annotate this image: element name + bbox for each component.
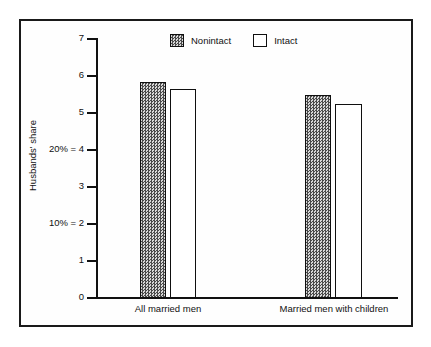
y-tick-label-2: 10% = 2 <box>14 218 84 228</box>
bar-nonintact-married-men-with-children <box>305 95 331 298</box>
x-category-label-married-men-with-children: Married men with children <box>265 303 403 314</box>
bar-intact-all-married-men <box>170 89 196 298</box>
y-tick-6 <box>87 75 96 77</box>
y-tick-label-7: 7 <box>14 33 84 43</box>
y-tick-label-2-wrap: 10% = 2 <box>8 218 84 228</box>
legend-label-intact: Intact <box>274 35 297 46</box>
open-square-icon <box>253 34 267 47</box>
y-tick-5 <box>87 112 96 114</box>
y-tick-label-0: 0 <box>14 292 84 302</box>
y-axis-line <box>96 38 98 299</box>
bar-nonintact-all-married-men <box>140 82 166 298</box>
y-tick-label-3: 3 <box>14 181 84 191</box>
y-tick-3 <box>87 186 96 188</box>
y-tick-2 <box>87 223 96 225</box>
y-tick-label-5: 5 <box>14 107 84 117</box>
legend-label-nonintact: Nonintact <box>191 35 231 46</box>
plot-area: Nonintact Intact Husbands' share 7 6 5 <box>0 0 431 347</box>
y-tick-label-0-wrap: 0 <box>8 292 84 302</box>
legend-item-nonintact: Nonintact <box>170 34 231 47</box>
y-tick-label-5-wrap: 5 <box>8 107 84 117</box>
legend-item-intact: Intact <box>253 34 297 47</box>
y-tick-label-6: 6 <box>14 70 84 80</box>
chart-figure: Nonintact Intact Husbands' share 7 6 5 <box>0 0 431 347</box>
y-tick-label-3-wrap: 3 <box>8 181 84 191</box>
y-tick-0 <box>87 297 96 299</box>
y-tick-label-7-wrap: 7 <box>8 33 84 43</box>
y-tick-7 <box>87 38 96 40</box>
x-category-label-all-married-men: All married men <box>108 303 228 314</box>
y-tick-1 <box>87 260 96 262</box>
y-tick-label-4-wrap: 20% = 4 <box>8 144 84 154</box>
bar-intact-married-men-with-children <box>335 104 362 298</box>
y-tick-4 <box>87 149 96 151</box>
stippled-square-icon <box>170 34 184 47</box>
chart-legend: Nonintact Intact <box>170 34 297 47</box>
y-tick-label-1: 1 <box>14 255 84 265</box>
y-tick-label-1-wrap: 1 <box>8 255 84 265</box>
y-tick-label-4: 20% = 4 <box>14 144 84 154</box>
y-tick-label-6-wrap: 6 <box>8 70 84 80</box>
